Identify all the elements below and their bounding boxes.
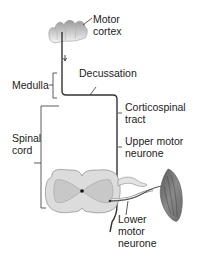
label-spinal-cord-line2: cord	[12, 144, 41, 156]
motor-cortex-illustration	[49, 20, 87, 42]
motor-cortex-leader	[83, 18, 92, 25]
label-corticospinal-line2: tract	[125, 113, 186, 125]
spinal-cord-cross-section	[45, 170, 120, 213]
label-medulla: Medulla	[12, 79, 49, 91]
decussation-leader	[90, 87, 96, 95]
label-upper-motor-neurone: Upper motor neurone	[125, 135, 183, 159]
label-lmn-line3: neurone	[118, 237, 157, 249]
label-spinal-cord: Spinal cord	[12, 132, 41, 156]
label-decussation: Decussation	[79, 67, 137, 79]
label-umn-line2: neurone	[125, 147, 183, 159]
label-motor-cortex-line2: cortex	[93, 25, 122, 37]
label-corticospinal-tract: Corticospinal tract	[125, 101, 186, 125]
medulla-bracket	[49, 73, 57, 98]
label-motor-cortex: Motor cortex	[93, 13, 122, 37]
motor-pathway-diagram	[0, 0, 198, 257]
label-motor-cortex-line1: Motor	[93, 13, 122, 25]
label-lmn-line2: motor	[118, 225, 157, 237]
label-spinal-cord-line1: Spinal	[12, 132, 41, 144]
direction-arrow-icon	[64, 55, 67, 61]
label-lmn-line1: Lower	[118, 213, 157, 225]
label-umn-line1: Upper motor	[125, 135, 183, 147]
muscle-illustration	[160, 169, 182, 221]
label-corticospinal-line1: Corticospinal	[125, 101, 186, 113]
label-lower-motor-neurone: Lower motor neurone	[118, 213, 157, 249]
